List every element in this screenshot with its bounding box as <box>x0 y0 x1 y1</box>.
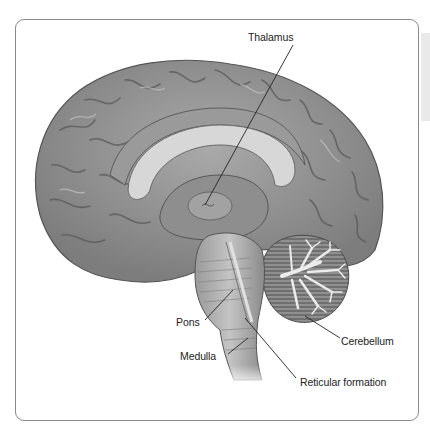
cerebellum-shape <box>262 235 349 322</box>
cerebellum-leader-line <box>305 316 340 338</box>
label-cerebellum: Cerebellum <box>341 335 394 347</box>
brain-illustration <box>0 0 430 432</box>
label-medulla: Medulla <box>180 350 216 362</box>
brainstem <box>195 233 270 387</box>
label-reticular-formation: Reticular formation <box>300 376 386 388</box>
label-pons: Pons <box>176 316 200 328</box>
label-thalamus: Thalamus <box>248 31 293 43</box>
